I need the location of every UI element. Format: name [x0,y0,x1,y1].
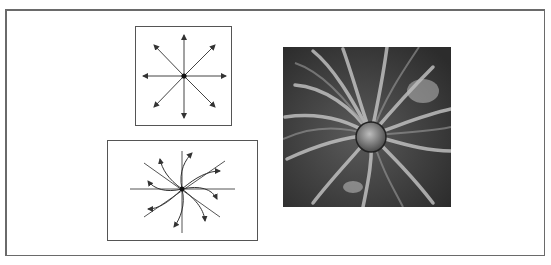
radial-vector-field-diagram [135,26,232,126]
source-point [181,73,186,78]
radial-arrows-icon [136,27,233,127]
spiral-pattern-photo [283,47,451,207]
spiral-arrows-icon [108,141,259,242]
spiral-vector-field-diagram [107,140,258,241]
figure-frame [5,9,545,256]
photo-image [283,47,451,207]
source-point [180,187,185,192]
